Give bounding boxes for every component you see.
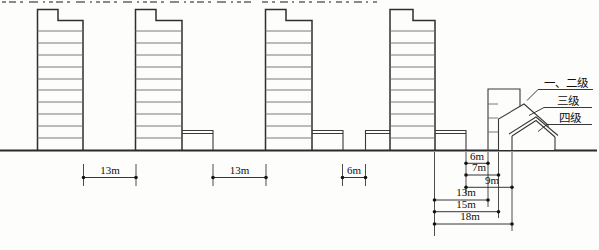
tower-2-podium (182, 131, 213, 151)
dim-18m-dot-left (433, 222, 437, 226)
dim-gap-1-value: 13m (100, 164, 120, 176)
dim-gap-2-dot-right (264, 176, 268, 180)
dim-7m-value: 7m (472, 161, 487, 173)
tower-4-left-podium (366, 131, 391, 151)
diagram-canvas: 一、二级 三级 四级 13m 13m 6m 6m (0, 0, 599, 250)
dim-stack-right: 6m 7m 9m 13m 15m (433, 150, 514, 237)
highrise-tower-3 (266, 10, 344, 151)
tower-3-floor-lines (266, 31, 313, 138)
grade-1-2-label: 一、二级 (544, 76, 589, 90)
dim-6m-dot-left (464, 162, 468, 166)
tower-4-right-podium (435, 131, 466, 151)
dim-6m-value: 6m (470, 150, 485, 162)
dim-7m-dot-left (464, 173, 468, 177)
tower-3-podium (312, 131, 343, 151)
tower-2-floor-lines (136, 31, 183, 138)
dim-15m-dot-left (433, 210, 437, 214)
dim-gap-3-value: 6m (347, 164, 362, 176)
dim-gap-1-dot-right (134, 176, 138, 180)
dim-9m-value: 9m (485, 174, 500, 186)
dim-13m-dot-right (486, 198, 490, 202)
highrise-tower-4 (366, 10, 467, 151)
tower-4-floor-lines (390, 31, 435, 138)
grade-3-label: 三级 (557, 94, 580, 108)
dim-tower-grade4: 18m (433, 210, 514, 226)
dim-6m-dot-right (486, 162, 490, 166)
dim-15m-dot-right (497, 210, 501, 214)
dim-gap-1: 13m (82, 164, 138, 187)
dim-13m-dot-left (433, 198, 437, 202)
dim-15m-value: 15m (456, 198, 476, 210)
tower-1-floor-lines (38, 31, 84, 138)
fire-separation-diagram: 一、二级 三级 四级 13m 13m 6m 6m (0, 0, 599, 250)
dim-18m-value: 18m (460, 210, 480, 222)
dim-gap-2: 13m (211, 164, 268, 187)
dim-gap-1-dot-left (82, 176, 86, 180)
grade12-building-floor-lines (488, 104, 498, 132)
dim-18m-dot-right (510, 222, 514, 226)
dim-13m-value: 13m (456, 186, 476, 198)
highrise-tower-2 (136, 10, 214, 151)
dim-9m-dot-right (510, 186, 514, 190)
lowrise-cluster (488, 89, 558, 150)
dim-gap-2-value: 13m (230, 164, 250, 176)
highrise-tower-1 (38, 10, 84, 151)
grade-4-label: 四级 (559, 111, 582, 125)
dim-gap-2-dot-left (211, 176, 215, 180)
dim-gap-3-dot-left (341, 176, 345, 180)
dim-gap-3: 6m (341, 164, 368, 187)
dim-gap-3-dot-right (364, 176, 368, 180)
